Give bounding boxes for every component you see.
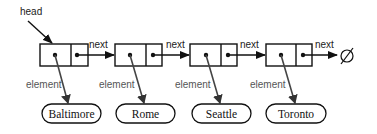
next-label: next <box>89 39 108 50</box>
next-label: next <box>240 39 259 50</box>
element-label: element <box>26 79 62 90</box>
head-arrow <box>28 21 52 43</box>
list-node <box>40 44 114 103</box>
element-value: Baltimore <box>49 108 95 120</box>
element-value: Seattle <box>206 108 237 120</box>
null-icon <box>341 48 353 64</box>
element-label: element <box>175 79 211 90</box>
element-label: element <box>99 79 135 90</box>
element-oval: Rome <box>116 104 175 123</box>
linked-list-diagram: head next element Baltimore next element… <box>0 0 377 134</box>
element-label: element <box>250 79 286 90</box>
list-node <box>266 44 337 103</box>
list-node <box>115 44 189 103</box>
element-oval: Baltimore <box>42 104 101 123</box>
next-label: next <box>166 39 185 50</box>
element-value: Rome <box>132 108 159 120</box>
head-label: head <box>20 6 42 17</box>
next-label: next <box>315 39 334 50</box>
list-node <box>190 44 265 103</box>
element-oval: Seattle <box>192 104 251 123</box>
element-oval: Toronto <box>266 104 326 123</box>
element-value: Toronto <box>278 108 314 120</box>
